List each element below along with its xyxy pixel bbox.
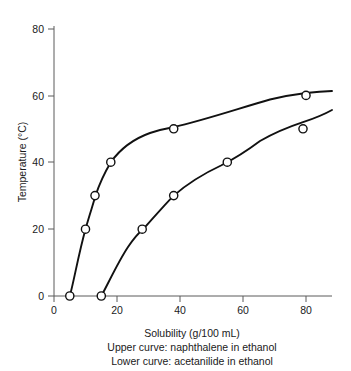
x-axis-title: Solubility (g/100 mL) bbox=[144, 327, 240, 339]
y-axis-title: Temperature (°C) bbox=[16, 122, 28, 203]
solubility-temperature-chart: 80 60 40 20 0 0 20 40 60 80 Temperature … bbox=[0, 0, 351, 371]
axes bbox=[54, 26, 332, 296]
y-tick-label-80: 80 bbox=[32, 23, 44, 35]
x-tick-label-80: 80 bbox=[300, 304, 312, 316]
series-acetanilide bbox=[97, 110, 332, 300]
data-point bbox=[299, 125, 307, 133]
chart-caption: Solubility (g/100 mL) Upper curve: napht… bbox=[107, 327, 276, 367]
x-tick-label-60: 60 bbox=[237, 304, 249, 316]
data-point bbox=[107, 158, 115, 166]
caption-upper-curve: Upper curve: naphthalene in ethanol bbox=[107, 341, 276, 353]
x-tick-label-20: 20 bbox=[111, 304, 123, 316]
y-tick-label-0: 0 bbox=[38, 290, 44, 302]
x-axis-tick-labels: 0 20 40 60 80 bbox=[51, 304, 312, 316]
data-point bbox=[91, 192, 99, 200]
series-acetanilide-line bbox=[101, 110, 332, 296]
y-tick-label-20: 20 bbox=[32, 223, 44, 235]
chart-canvas: 80 60 40 20 0 0 20 40 60 80 Temperature … bbox=[0, 0, 351, 371]
data-point bbox=[302, 91, 310, 99]
x-tick-label-0: 0 bbox=[51, 304, 57, 316]
x-tick-label-40: 40 bbox=[174, 304, 186, 316]
data-point bbox=[170, 125, 178, 133]
y-axis-ticks bbox=[48, 29, 54, 296]
series-naphthalene-line bbox=[70, 91, 332, 296]
data-point bbox=[81, 225, 89, 233]
data-point bbox=[97, 292, 105, 300]
x-axis-ticks bbox=[54, 296, 306, 302]
data-point bbox=[170, 192, 178, 200]
data-point bbox=[223, 158, 231, 166]
data-point bbox=[138, 225, 146, 233]
data-point bbox=[66, 292, 74, 300]
series-naphthalene bbox=[66, 91, 332, 300]
y-axis-tick-labels: 80 60 40 20 0 bbox=[32, 23, 44, 302]
y-tick-label-40: 40 bbox=[32, 156, 44, 168]
caption-lower-curve: Lower curve: acetanilide in ethanol bbox=[111, 355, 273, 367]
y-tick-label-60: 60 bbox=[32, 90, 44, 102]
